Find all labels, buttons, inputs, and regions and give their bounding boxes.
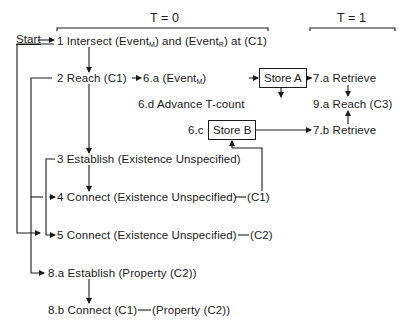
node-3-establish: 3 Establish (Existence Unspecified): [57, 152, 241, 166]
t1-bracket: [310, 28, 395, 31]
node-2-reach: 2 Reach (C1): [57, 71, 127, 85]
store-b-box: Store B: [208, 120, 256, 140]
node-7a-retrieve: 7.a Retrieve: [313, 71, 376, 85]
node-6c-label: 6.c: [188, 123, 204, 137]
node-1-text-b: ) and (Event: [155, 35, 219, 47]
node-9a-reach: 9.a Reach (C3): [313, 97, 392, 111]
node-8b-connect: 8.b Connect (C1): [48, 303, 137, 317]
node-8a-establish: 8.a Establish (Property (C2)): [48, 266, 197, 280]
node-1-intersect: 1 Intersect (EventM) and (EventR) at (C1…: [57, 34, 267, 52]
node-1-text-a: 1 Intersect (Event: [57, 35, 149, 47]
node-4-tail-c1: (C1): [247, 190, 270, 204]
node-5-tail-c2: (C2): [250, 228, 273, 242]
node-6a-text: 6.a (Event: [143, 72, 196, 84]
node-5-connect: 5 Connect (Existence Unspecified): [57, 228, 237, 242]
node-6a: 6.a (EventM): [143, 71, 206, 89]
t0-header: T = 0: [150, 11, 179, 25]
start-label: Start: [16, 32, 41, 46]
store-a-box: Store A: [259, 68, 307, 88]
node-7b-retrieve: 7.b Retrieve: [313, 123, 376, 137]
t0-bracket: [57, 28, 268, 31]
t1-header: T = 1: [337, 11, 366, 25]
node-6d-advance: 6.d Advance T-count: [138, 97, 245, 111]
node-6a-suffix: ): [202, 72, 206, 84]
node-4-connect: 4 Connect (Existence Unspecified): [57, 190, 237, 204]
flow-diagram: T = 0 T = 1 Start 1 Intersect (EventM) a…: [0, 0, 412, 328]
node-8b-tail-property: (Property (C2)): [152, 303, 230, 317]
node-1-text-c: ) at (C1): [224, 35, 267, 47]
